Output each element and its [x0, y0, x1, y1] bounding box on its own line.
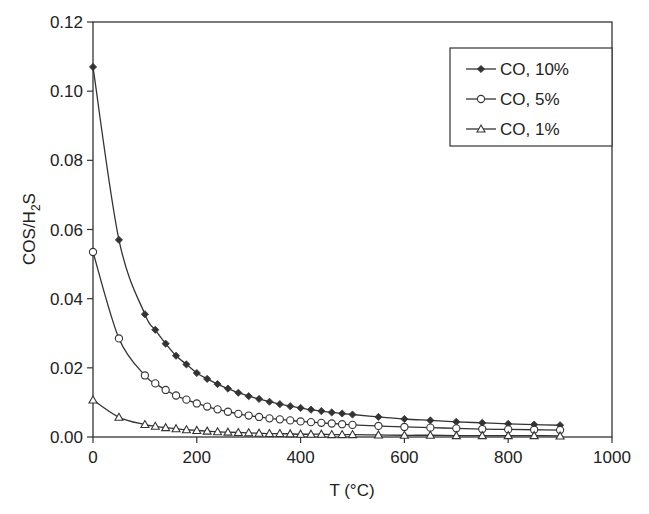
diamond-marker: [276, 401, 283, 408]
y-tick-label: 0.08: [50, 151, 83, 170]
diamond-marker: [318, 407, 325, 414]
diamond-marker: [204, 375, 211, 382]
circle-marker: [245, 412, 252, 419]
circle-marker: [266, 415, 273, 422]
circle-marker: [141, 372, 148, 379]
series-2: [89, 248, 563, 433]
triangle-marker: [89, 396, 97, 403]
y-axis-title-main: COS/H: [20, 211, 39, 265]
circle-marker: [287, 417, 294, 424]
circle-marker: [224, 408, 231, 415]
diamond-marker: [141, 311, 148, 318]
y-tick-label: 0.00: [50, 428, 83, 447]
circle-marker: [183, 396, 190, 403]
diamond-marker: [339, 410, 346, 417]
circle-marker: [152, 380, 159, 387]
y-tick-label: 0.06: [50, 221, 83, 240]
x-tick-label: 800: [494, 448, 522, 467]
circle-marker: [89, 248, 96, 255]
diamond-marker: [224, 385, 231, 392]
diamond-marker: [375, 413, 382, 420]
circle-marker: [172, 392, 179, 399]
x-tick-label: 600: [390, 448, 418, 467]
diamond-marker: [115, 236, 122, 243]
diamond-marker: [328, 409, 335, 416]
series-3: [89, 396, 564, 439]
circle-marker: [401, 423, 408, 430]
diamond-marker: [297, 404, 304, 411]
legend-label: CO, 5%: [500, 90, 560, 109]
diamond-marker: [255, 395, 262, 402]
y-tick-label: 0.04: [50, 290, 83, 309]
chart: 0.000.020.040.060.080.100.12 02004006008…: [0, 0, 649, 514]
diamond-marker: [89, 63, 96, 70]
y-axis-title: COS/H2S: [20, 193, 43, 265]
circle-marker: [307, 419, 314, 426]
x-tick-label: 1000: [593, 448, 631, 467]
y-tick-label: 0.02: [50, 359, 83, 378]
triangle-marker: [115, 413, 123, 420]
circle-marker: [255, 413, 262, 420]
y-axis: 0.000.020.040.060.080.100.12: [50, 13, 93, 447]
circle-marker: [328, 420, 335, 427]
legend: CO, 10%CO, 5%CO, 1%: [450, 48, 612, 146]
circle-marker: [193, 400, 200, 407]
circle-marker: [235, 410, 242, 417]
diamond-marker: [349, 411, 356, 418]
legend-label: CO, 1%: [500, 120, 560, 139]
circle-marker: [477, 95, 484, 102]
circle-marker: [115, 335, 122, 342]
diamond-marker: [287, 403, 294, 410]
circle-marker: [339, 421, 346, 428]
circle-marker: [349, 421, 356, 428]
y-tick-label: 0.10: [50, 82, 83, 101]
diamond-marker: [401, 415, 408, 422]
circle-marker: [162, 386, 169, 393]
circle-marker: [276, 416, 283, 423]
x-tick-label: 400: [286, 448, 314, 467]
x-tick-label: 200: [183, 448, 211, 467]
circle-marker: [297, 418, 304, 425]
diamond-marker: [235, 389, 242, 396]
x-axis: 02004006008001000: [88, 437, 631, 467]
circle-marker: [375, 422, 382, 429]
diamond-marker: [245, 393, 252, 400]
circle-marker: [204, 403, 211, 410]
legend-label: CO, 10%: [500, 60, 569, 79]
circle-marker: [214, 406, 221, 413]
diamond-marker: [307, 406, 314, 413]
y-tick-label: 0.12: [50, 13, 83, 32]
x-tick-label: 0: [88, 448, 97, 467]
diamond-marker: [266, 398, 273, 405]
diamond-marker: [427, 417, 434, 424]
x-axis-title: T (°C): [329, 481, 374, 500]
diamond-marker: [214, 380, 221, 387]
y-axis-title-tail: S: [20, 193, 39, 204]
circle-marker: [318, 419, 325, 426]
